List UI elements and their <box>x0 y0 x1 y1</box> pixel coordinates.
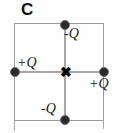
charge-label-top: -Q <box>64 27 79 41</box>
physics-charge-diagram-panel-c: C -Q +Q +Q -Q ✖ <box>0 0 121 133</box>
center-x-marker: ✖ <box>59 66 72 79</box>
charge-dot-bottom <box>60 115 70 125</box>
charge-label-bottom: -Q <box>41 102 56 116</box>
panel-label: C <box>21 0 33 19</box>
square-top-edge <box>14 23 104 24</box>
left-edge-overshoot <box>14 120 15 131</box>
right-edge-overshoot <box>103 120 104 129</box>
charge-label-left: +Q <box>17 56 37 70</box>
charge-label-right: +Q <box>89 77 109 91</box>
square-bottom-edge <box>14 120 104 121</box>
